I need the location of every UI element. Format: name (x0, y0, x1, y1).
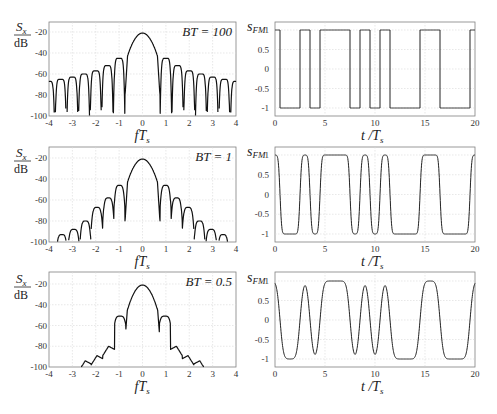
x-tick-label: 15 (421, 244, 431, 254)
signal-xlabel: t /Ts (361, 379, 384, 396)
signal-ylabel: sFM (247, 19, 266, 35)
x-tick-label: 0 (273, 244, 278, 254)
bt-annotation: BT = 0.5 (186, 274, 233, 289)
x-tick-label: 20 (471, 244, 481, 254)
y-tick-label: -20 (35, 153, 47, 163)
y-tick-label: -0.5 (255, 335, 270, 345)
x-tick-label: 5 (323, 369, 328, 379)
svg-text:dB: dB (14, 288, 28, 302)
svg-text:Sx: Sx (16, 271, 27, 288)
x-tick-label: 2 (187, 369, 192, 379)
psd-xlabel: fTs (135, 379, 151, 396)
y-tick-label: -100 (31, 237, 48, 247)
signal-ylabel: sFM (247, 270, 266, 286)
svg-text:Sx: Sx (16, 145, 27, 162)
x-tick-label: 1 (164, 244, 169, 254)
x-tick-label: -3 (69, 244, 77, 254)
x-tick-label: -1 (115, 244, 123, 254)
signal-plot-1: 0510152010.50-0.5-1sFMt /Ts (247, 19, 480, 145)
y-tick-label: -40 (35, 48, 47, 58)
y-tick-label: -1 (262, 103, 270, 113)
x-tick-label: 15 (421, 369, 431, 379)
x-tick-label: 2 (187, 244, 192, 254)
y-tick-label: -1 (262, 354, 270, 364)
signal-xlabel: t /Ts (361, 254, 384, 271)
x-tick-label: 4 (234, 244, 239, 254)
psd-ylabel: SxdB (14, 271, 31, 302)
y-tick-label: -80 (35, 216, 47, 226)
x-tick-label: 0 (273, 118, 278, 128)
y-tick-label: 0.5 (258, 170, 270, 180)
x-tick-label: 4 (234, 118, 239, 128)
signal-plot-3: 0510152010.50-0.5-1sFMt /Ts (247, 270, 480, 396)
x-tick-label: 1 (164, 118, 169, 128)
x-tick-label: 2 (187, 118, 192, 128)
signal-plot-2: 0510152010.50-0.5-1sFMt /Ts (247, 144, 480, 271)
x-tick-label: 15 (421, 118, 431, 128)
svg-text:Sx: Sx (16, 19, 27, 36)
psd-ylabel: SxdB (14, 19, 31, 50)
y-tick-label: -20 (35, 279, 47, 289)
x-tick-label: -2 (92, 369, 100, 379)
signal-xlabel: t /Ts (361, 128, 384, 145)
x-tick-label: 4 (234, 369, 239, 379)
figure: -4-3-2-101234-20-40-60-80-100BT = 100Sxd… (0, 0, 497, 414)
psd-ylabel: SxdB (14, 145, 31, 176)
y-tick-label: -1 (262, 229, 270, 239)
x-tick-label: -2 (92, 118, 100, 128)
x-tick-label: 20 (471, 118, 481, 128)
x-tick-label: 0 (273, 369, 278, 379)
x-tick-label: 3 (210, 244, 215, 254)
y-tick-label: 0.5 (258, 45, 270, 55)
bt-annotation: BT = 100 (182, 24, 232, 39)
y-tick-label: -0.5 (255, 209, 270, 219)
y-tick-label: -60 (35, 321, 47, 331)
bt-annotation: BT = 1 (195, 149, 232, 164)
y-tick-label: -80 (35, 341, 47, 351)
y-tick-label: 0 (265, 64, 270, 74)
x-tick-label: 3 (210, 118, 215, 128)
psd-plot-2: -4-3-2-101234-20-40-60-80-100BT = 1SxdBf… (14, 145, 239, 271)
x-tick-label: -3 (69, 369, 77, 379)
y-tick-label: 0 (265, 315, 270, 325)
x-tick-label: 0 (140, 118, 145, 128)
psd-plot-3: -4-3-2-101234-20-40-60-80-100BT = 0.5Sxd… (14, 271, 239, 396)
y-tick-label: -20 (35, 27, 47, 37)
x-tick-label: 0 (140, 369, 145, 379)
x-tick-label: 10 (371, 369, 381, 379)
x-tick-label: -2 (92, 244, 100, 254)
y-tick-label: 0.5 (258, 296, 270, 306)
psd-xlabel: fTs (135, 128, 151, 145)
y-tick-label: -60 (35, 69, 47, 79)
plot-area (275, 272, 475, 367)
svg-text:dB: dB (14, 162, 28, 176)
psd-plot-1: -4-3-2-101234-20-40-60-80-100BT = 100Sxd… (14, 19, 239, 145)
y-tick-label: -100 (31, 111, 48, 121)
svg-text:dB: dB (14, 36, 28, 50)
y-tick-label: 0 (265, 190, 270, 200)
y-tick-label: -40 (35, 174, 47, 184)
x-tick-label: -1 (115, 369, 123, 379)
x-tick-label: 0 (140, 244, 145, 254)
signal-ylabel: sFM (247, 144, 266, 160)
x-tick-label: 10 (371, 118, 381, 128)
y-tick-label: -0.5 (255, 84, 270, 94)
x-tick-label: -3 (69, 118, 77, 128)
x-tick-label: 10 (371, 244, 381, 254)
x-tick-label: 20 (471, 369, 481, 379)
y-tick-label: -60 (35, 195, 47, 205)
x-tick-label: -1 (115, 118, 123, 128)
y-tick-label: -100 (31, 362, 48, 372)
x-tick-label: 5 (323, 118, 328, 128)
y-tick-label: -40 (35, 300, 47, 310)
x-tick-label: 3 (210, 369, 215, 379)
psd-xlabel: fTs (135, 254, 151, 271)
x-tick-label: 5 (323, 244, 328, 254)
y-tick-label: -80 (35, 90, 47, 100)
x-tick-label: 1 (164, 369, 169, 379)
